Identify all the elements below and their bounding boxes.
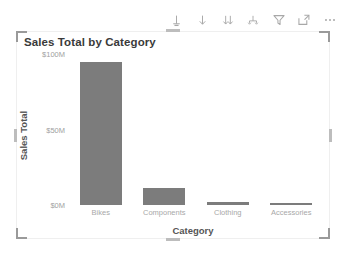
drill-up-icon[interactable] xyxy=(166,10,187,31)
bar-chart: Sales Total $0M$50M$100M BikesComponents… xyxy=(17,32,329,238)
x-axis-tick: Bikes xyxy=(69,208,133,220)
bar[interactable] xyxy=(270,203,312,205)
y-axis-tick: $50M xyxy=(46,125,65,134)
bar[interactable] xyxy=(80,62,122,205)
bar-slot xyxy=(69,54,133,205)
y-axis-title: Sales Total xyxy=(17,90,31,180)
x-axis-title-label: Category xyxy=(172,225,213,236)
x-axis-tick: Accessories xyxy=(260,208,324,220)
focus-mode-icon[interactable] xyxy=(294,10,315,31)
bar-slot xyxy=(260,54,324,205)
bar-slot xyxy=(133,54,197,205)
bar-slot xyxy=(196,54,260,205)
y-axis-tick: $100M xyxy=(42,50,65,59)
bar[interactable] xyxy=(207,202,249,205)
plot-area xyxy=(69,54,323,205)
bar[interactable] xyxy=(143,188,185,205)
x-axis-tick: Clothing xyxy=(196,208,260,220)
drill-down-icon[interactable] xyxy=(192,10,213,31)
resize-handle-right[interactable] xyxy=(329,129,332,142)
y-axis-tick-labels: $0M$50M$100M xyxy=(31,54,67,205)
x-axis-title: Category xyxy=(63,225,323,236)
visual-card[interactable]: Sales Total by Category Sales Total $0M$… xyxy=(16,31,330,239)
resize-handle-bottom[interactable] xyxy=(166,238,180,241)
visual-header-toolbar xyxy=(166,9,340,31)
x-axis-tick: Components xyxy=(133,208,197,220)
y-axis-title-label: Sales Total xyxy=(19,110,30,159)
more-options-icon[interactable] xyxy=(319,10,340,31)
expand-next-level-icon[interactable] xyxy=(217,10,238,31)
y-axis-tick: $0M xyxy=(50,201,65,210)
expand-all-down-icon[interactable] xyxy=(243,10,264,31)
bar-series xyxy=(69,54,323,205)
x-axis-tick-labels: BikesComponentsClothingAccessories xyxy=(69,208,323,220)
filter-icon[interactable] xyxy=(268,10,289,31)
